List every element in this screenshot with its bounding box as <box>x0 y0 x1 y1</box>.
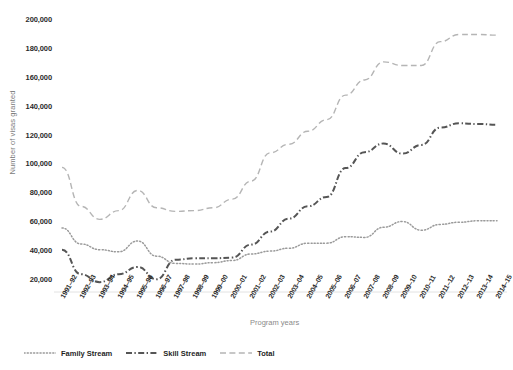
legend-item-skill-stream[interactable]: Skill Stream <box>126 349 206 358</box>
legend-label: Skill Stream <box>163 349 206 358</box>
series-line-skill-stream <box>62 123 497 282</box>
series-line-total <box>62 34 497 219</box>
chart-legend: Family StreamSkill StreamTotal <box>24 344 324 362</box>
legend-swatch-dashed-icon <box>220 349 252 357</box>
legend-label: Total <box>257 349 274 358</box>
legend-item-family-stream[interactable]: Family Stream <box>24 349 112 358</box>
legend-swatch-dash-dot-icon <box>126 349 158 357</box>
legend-label: Family Stream <box>61 349 112 358</box>
legend-item-total[interactable]: Total <box>220 349 274 358</box>
x-axis-title: Program years <box>250 318 299 327</box>
series-line-family-stream <box>62 221 497 264</box>
legend-swatch-dotted-icon <box>24 349 56 357</box>
